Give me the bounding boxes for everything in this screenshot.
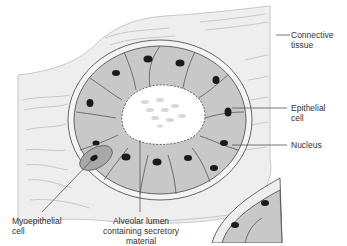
alveolar-lumen-shape xyxy=(122,85,205,145)
label-nucleus: Nucleus xyxy=(291,140,322,150)
label-alveolar-lumen: Alveolar lumen containing secretory mate… xyxy=(95,216,187,246)
label-epithelial-cell: Epithelial cell xyxy=(291,103,326,123)
label-myoepithelial-cell: Myoepithelial cell xyxy=(12,216,62,236)
label-connective-tissue: Connective tissue xyxy=(291,30,334,50)
